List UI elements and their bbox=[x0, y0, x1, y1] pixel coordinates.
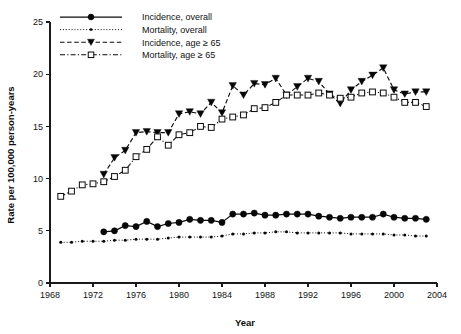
marker-open-square bbox=[251, 106, 257, 112]
marker-open-square bbox=[402, 99, 408, 105]
marker-open-square bbox=[88, 52, 94, 58]
x-tick-label: 1992 bbox=[298, 290, 318, 300]
x-axis-title: Year bbox=[235, 317, 255, 328]
marker-filled-triangle bbox=[390, 87, 397, 94]
marker-filled-circle bbox=[402, 215, 408, 221]
legend-item[interactable]: Mortality, overall bbox=[60, 25, 207, 35]
axes-group: 0510152025196819721976198019841988199219… bbox=[33, 17, 447, 300]
marker-filled-circle bbox=[101, 229, 107, 235]
marker-small-dot bbox=[156, 238, 159, 241]
marker-small-dot bbox=[210, 236, 213, 239]
data-series bbox=[58, 89, 429, 199]
x-tick-label: 1972 bbox=[83, 290, 103, 300]
chart-figure: 0510152025196819721976198019841988199219… bbox=[0, 0, 461, 334]
marker-small-dot bbox=[371, 232, 374, 235]
marker-open-square bbox=[155, 134, 161, 140]
marker-small-dot bbox=[285, 230, 288, 233]
series-group bbox=[58, 65, 430, 244]
marker-small-dot bbox=[199, 236, 202, 239]
marker-open-square bbox=[327, 92, 333, 98]
marker-filled-triangle bbox=[401, 91, 408, 98]
marker-filled-circle bbox=[283, 211, 289, 217]
marker-filled-circle bbox=[154, 224, 160, 230]
marker-small-dot bbox=[124, 239, 127, 242]
marker-small-dot bbox=[102, 240, 105, 243]
marker-filled-circle bbox=[144, 218, 150, 224]
marker-open-square bbox=[370, 89, 376, 95]
y-tick-label: 10 bbox=[33, 174, 43, 184]
marker-small-dot bbox=[339, 231, 342, 234]
marker-filled-triangle bbox=[197, 111, 204, 118]
marker-small-dot bbox=[274, 230, 277, 233]
marker-small-dot bbox=[403, 233, 406, 236]
marker-small-dot bbox=[135, 238, 138, 241]
marker-open-square bbox=[316, 90, 322, 96]
marker-small-dot bbox=[231, 232, 234, 235]
marker-open-square bbox=[241, 112, 247, 118]
marker-open-square bbox=[359, 90, 365, 96]
marker-filled-circle bbox=[391, 214, 397, 220]
marker-small-dot bbox=[360, 232, 363, 235]
marker-small-dot bbox=[188, 236, 191, 239]
legend-label: Incidence, age ≥ 65 bbox=[142, 38, 221, 48]
marker-small-dot bbox=[178, 236, 181, 239]
marker-open-square bbox=[133, 154, 139, 160]
marker-open-square bbox=[79, 182, 85, 188]
marker-filled-circle bbox=[240, 211, 246, 217]
marker-small-dot bbox=[296, 231, 299, 234]
marker-filled-triangle bbox=[132, 130, 139, 137]
marker-filled-circle bbox=[273, 212, 279, 218]
marker-small-dot bbox=[414, 235, 417, 238]
marker-open-square bbox=[380, 90, 386, 96]
marker-open-square bbox=[413, 99, 419, 105]
marker-filled-circle bbox=[122, 222, 128, 228]
marker-open-square bbox=[58, 193, 64, 199]
marker-filled-triangle bbox=[165, 130, 172, 137]
x-tick-label: 1988 bbox=[255, 290, 275, 300]
marker-filled-circle bbox=[219, 219, 225, 225]
marker-filled-triangle bbox=[100, 171, 107, 178]
marker-small-dot bbox=[113, 239, 116, 242]
marker-open-square bbox=[198, 124, 204, 130]
legend-item[interactable]: Mortality, age ≥ 65 bbox=[60, 50, 215, 60]
marker-open-square bbox=[208, 125, 214, 131]
marker-open-square bbox=[69, 188, 75, 194]
x-tick-label: 2004 bbox=[427, 290, 447, 300]
marker-open-square bbox=[348, 94, 354, 100]
marker-open-square bbox=[165, 142, 171, 148]
marker-small-dot bbox=[70, 241, 73, 244]
marker-filled-circle bbox=[197, 217, 203, 223]
marker-open-square bbox=[423, 104, 429, 110]
data-series bbox=[101, 210, 430, 235]
marker-filled-triangle bbox=[315, 78, 322, 85]
marker-small-dot bbox=[425, 235, 428, 238]
legend-item[interactable]: Incidence, age ≥ 65 bbox=[60, 38, 221, 48]
marker-small-dot bbox=[253, 231, 256, 234]
marker-open-square bbox=[101, 179, 107, 185]
marker-open-square bbox=[144, 146, 150, 152]
marker-filled-circle bbox=[305, 211, 311, 217]
legend-label: Mortality, age ≥ 65 bbox=[142, 50, 215, 60]
marker-filled-circle bbox=[176, 219, 182, 225]
marker-filled-triangle bbox=[369, 72, 376, 79]
series-line bbox=[61, 92, 427, 196]
marker-small-dot bbox=[145, 238, 148, 241]
y-tick-label: 0 bbox=[38, 278, 43, 288]
legend-label: Mortality, overall bbox=[142, 25, 207, 35]
legend-item[interactable]: Incidence, overall bbox=[60, 12, 212, 22]
marker-open-square bbox=[112, 174, 118, 180]
marker-filled-circle bbox=[133, 224, 139, 230]
marker-small-dot bbox=[328, 231, 331, 234]
marker-filled-circle bbox=[251, 210, 257, 216]
marker-filled-circle bbox=[294, 211, 300, 217]
marker-filled-circle bbox=[359, 214, 365, 220]
marker-open-square bbox=[284, 92, 290, 98]
marker-filled-triangle bbox=[272, 75, 279, 82]
marker-filled-circle bbox=[423, 216, 429, 222]
marker-filled-circle bbox=[348, 214, 354, 220]
marker-small-dot bbox=[92, 240, 95, 243]
marker-filled-circle bbox=[316, 213, 322, 219]
marker-small-dot bbox=[90, 28, 93, 31]
marker-filled-circle bbox=[262, 212, 268, 218]
marker-filled-circle bbox=[88, 14, 94, 20]
